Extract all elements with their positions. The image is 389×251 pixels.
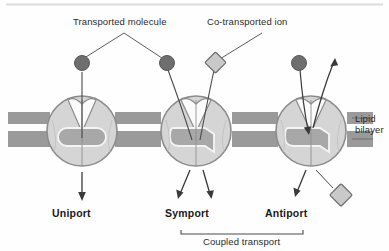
label-cotransported-ion: Co-transported ion (207, 16, 287, 27)
cotransported-ion-diamond-1 (205, 52, 226, 73)
antiport-ion-release-line (316, 170, 333, 188)
label-lipid-bilayer-line2: bilayer (355, 124, 384, 135)
transporter-antiport (276, 96, 346, 166)
transported-molecule-circle-3 (292, 56, 307, 71)
antiport-exit-arrow (293, 170, 306, 197)
coupled-transport-bracket (181, 230, 303, 234)
symport-exit-arrows (176, 170, 214, 199)
transported-molecule-circle-2 (160, 56, 175, 71)
membrane-transport-diagram: Transported molecule Co-transported ion … (0, 0, 389, 251)
label-uniport: Uniport (52, 208, 91, 219)
uniport-exit-arrow (78, 172, 86, 201)
transported-molecule-circle-1 (75, 56, 90, 71)
transporter-symport (161, 96, 231, 166)
label-coupled-transport: Coupled transport (203, 236, 280, 247)
label-transported-molecule: Transported molecule (73, 16, 167, 27)
label-lipid-bilayer-line1: Lipid (355, 113, 376, 124)
cotransported-ion-diamond-2 (330, 184, 353, 207)
label-symport: Symport (165, 208, 209, 219)
label-antiport: Antiport (265, 208, 307, 219)
